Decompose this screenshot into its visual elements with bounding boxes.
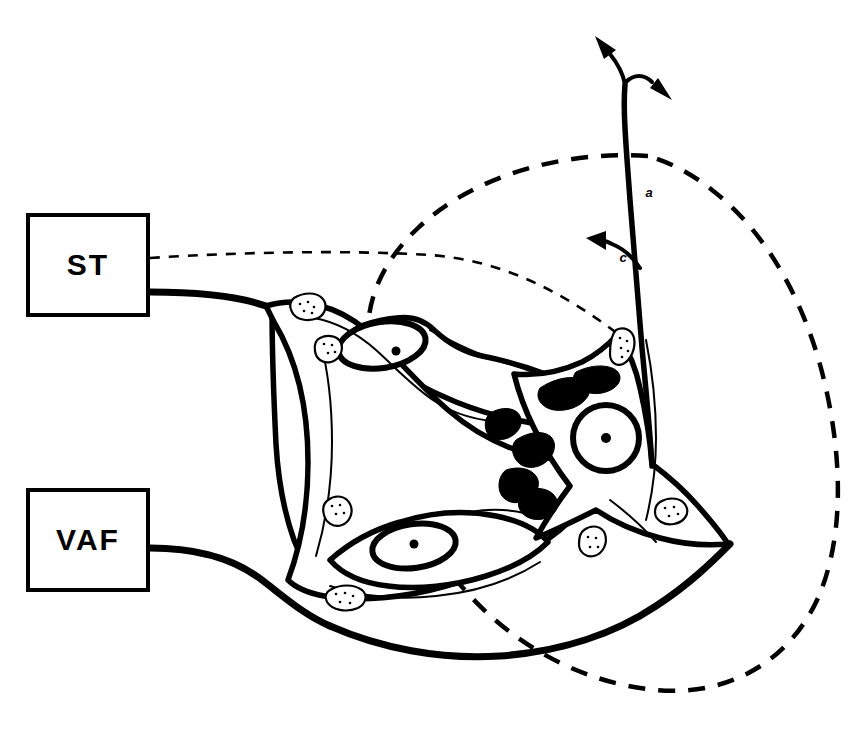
- nucleolus-right: [601, 433, 611, 443]
- bouton-upper-dendrite: [315, 336, 342, 362]
- bouton-right-lower: [655, 499, 687, 525]
- neuron-diagram-svg: ST VAF a c: [0, 0, 866, 732]
- vaf-box-label: VAF: [56, 523, 120, 556]
- bouton-lower-middle-right: [579, 527, 606, 557]
- collateral-label-c: c: [619, 250, 627, 265]
- nucleolus-upper: [392, 347, 401, 356]
- input-box-st[interactable]: ST: [28, 215, 148, 315]
- bouton-bottom-left: [326, 586, 366, 611]
- input-box-vaf[interactable]: VAF: [28, 490, 148, 590]
- bouton-lower-left-dendrite: [323, 497, 351, 526]
- nucleolus-lower-left: [410, 540, 419, 549]
- axon-label-a: a: [645, 185, 652, 200]
- arrowhead-collateral: [586, 231, 606, 250]
- st-box-label: ST: [67, 248, 109, 281]
- figure-canvas: ST VAF a c: [0, 0, 866, 732]
- bouton-st-contact: [290, 294, 325, 321]
